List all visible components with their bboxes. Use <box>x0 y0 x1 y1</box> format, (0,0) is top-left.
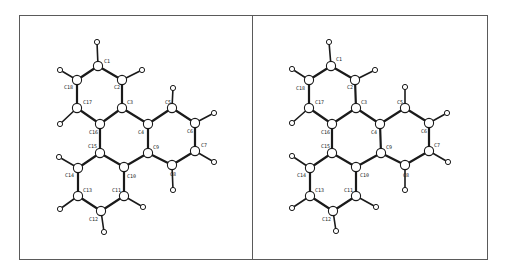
atom-label: C11 <box>112 187 121 193</box>
carbon-atom-c17 <box>72 103 81 112</box>
atom-label: C8 <box>170 171 176 177</box>
right-view-frame <box>253 16 488 260</box>
atom-label: C16 <box>321 129 330 135</box>
hydrogen-atom-h5 <box>170 85 175 90</box>
carbon-atom-c18 <box>72 75 81 84</box>
carbon-atom-c7 <box>424 146 433 155</box>
carbon-atom-c9 <box>143 148 152 157</box>
carbon-atom-c18 <box>304 75 313 84</box>
carbon-atom-c6 <box>190 118 199 127</box>
atom-label: C5 <box>165 99 171 105</box>
atom-label: C9 <box>153 144 159 150</box>
hydrogen-atom-h18 <box>289 66 294 71</box>
hydrogen-atom-h1 <box>94 39 99 44</box>
atom-label: C7 <box>201 142 207 148</box>
atom-label: C4 <box>138 129 144 135</box>
left-molecule: C1C2C18C17C3C16C4C5C6C7C9C15C8C10C14C13C… <box>56 39 216 234</box>
carbon-atom-c3 <box>351 103 360 112</box>
atom-label: C11 <box>344 187 353 193</box>
carbon-atom-c12 <box>328 206 337 215</box>
hydrogen-atom-h12 <box>333 228 338 233</box>
carbon-atom-c10 <box>351 162 360 171</box>
right-molecule: C1C2C18C17C3C16C4C5C6C7C9C15C8C10C14C13C… <box>289 39 450 233</box>
carbon-atom-c12 <box>96 206 105 215</box>
stereo-molecule-diagram: C1C2C18C17C3C16C4C5C6C7C9C15C8C10C14C13C… <box>0 0 509 269</box>
atom-label: C1 <box>336 56 342 62</box>
atom-label: C14 <box>65 172 74 178</box>
hydrogen-atom-h17 <box>289 120 294 125</box>
hydrogen-atom-h11 <box>373 204 378 209</box>
atom-label: C15 <box>88 143 97 149</box>
carbon-atom-c8 <box>400 160 409 169</box>
carbon-atom-c9 <box>376 148 385 157</box>
carbon-atom-c14 <box>73 163 82 172</box>
hydrogen-atom-h6 <box>211 110 216 115</box>
carbon-atom-c17 <box>304 103 313 112</box>
atom-label: C5 <box>397 99 403 105</box>
hydrogen-atom-h8 <box>402 187 407 192</box>
atom-label: C7 <box>434 142 440 148</box>
atom-label: C8 <box>403 172 409 178</box>
carbon-atom-c3 <box>117 103 126 112</box>
hydrogen-atom-h11 <box>140 204 145 209</box>
atom-label: C17 <box>83 99 92 105</box>
carbon-atom-c13 <box>73 191 82 200</box>
hydrogen-atom-h7 <box>211 159 216 164</box>
left-view-frame <box>20 16 253 260</box>
hydrogen-atom-h17 <box>57 121 62 126</box>
hydrogen-atom-h2 <box>139 67 144 72</box>
carbon-atom-c7 <box>190 146 199 155</box>
atom-label: C10 <box>127 173 136 179</box>
atom-label: C12 <box>322 216 331 222</box>
atom-label: C18 <box>296 85 305 91</box>
hydrogen-atom-h6 <box>444 110 449 115</box>
atom-label: C3 <box>361 99 367 105</box>
atom-label: C15 <box>321 143 330 149</box>
atom-label: C9 <box>386 144 392 150</box>
atom-label: C6 <box>187 128 193 134</box>
atom-label: C12 <box>89 216 98 222</box>
carbon-atom-c16 <box>95 119 104 128</box>
carbon-atom-c4 <box>375 119 384 128</box>
carbon-atom-c8 <box>167 160 176 169</box>
hydrogen-atom-h12 <box>101 229 106 234</box>
carbon-atom-c15 <box>95 148 104 157</box>
carbon-atom-c10 <box>119 162 128 171</box>
carbon-atom-c6 <box>424 118 433 127</box>
carbon-atom-c16 <box>327 119 336 128</box>
atom-label: C2 <box>347 84 353 90</box>
atom-label: C13 <box>83 187 92 193</box>
hydrogen-atom-h8 <box>170 187 175 192</box>
atom-label: C3 <box>127 99 133 105</box>
atom-label: C16 <box>89 129 98 135</box>
hydrogen-atom-h13 <box>289 205 294 210</box>
atom-label: C18 <box>64 84 73 90</box>
atom-label: C6 <box>421 128 427 134</box>
hydrogen-atom-h7 <box>445 159 450 164</box>
carbon-atom-c1 <box>93 61 102 70</box>
atom-label: C17 <box>315 99 324 105</box>
atom-label: C10 <box>360 172 369 178</box>
hydrogen-atom-h5 <box>402 84 407 89</box>
hydrogen-atom-h18 <box>57 67 62 72</box>
atom-label: C13 <box>315 187 324 193</box>
molecule-views: C1C2C18C17C3C16C4C5C6C7C9C15C8C10C14C13C… <box>56 39 450 234</box>
hydrogen-atom-h14 <box>56 154 61 159</box>
atom-label: C2 <box>114 84 120 90</box>
carbon-atom-c13 <box>305 191 314 200</box>
carbon-atom-c14 <box>305 163 314 172</box>
hydrogen-atom-h1 <box>326 39 331 44</box>
atom-label: C4 <box>371 129 377 135</box>
hydrogen-atom-h14 <box>289 153 294 158</box>
carbon-atom-c1 <box>326 61 335 70</box>
atom-label: C1 <box>104 58 110 64</box>
hydrogen-atom-h2 <box>372 67 377 72</box>
hydrogen-atom-h13 <box>57 206 62 211</box>
atom-label: C14 <box>297 172 306 178</box>
carbon-atom-c15 <box>327 148 336 157</box>
carbon-atom-c4 <box>143 119 152 128</box>
